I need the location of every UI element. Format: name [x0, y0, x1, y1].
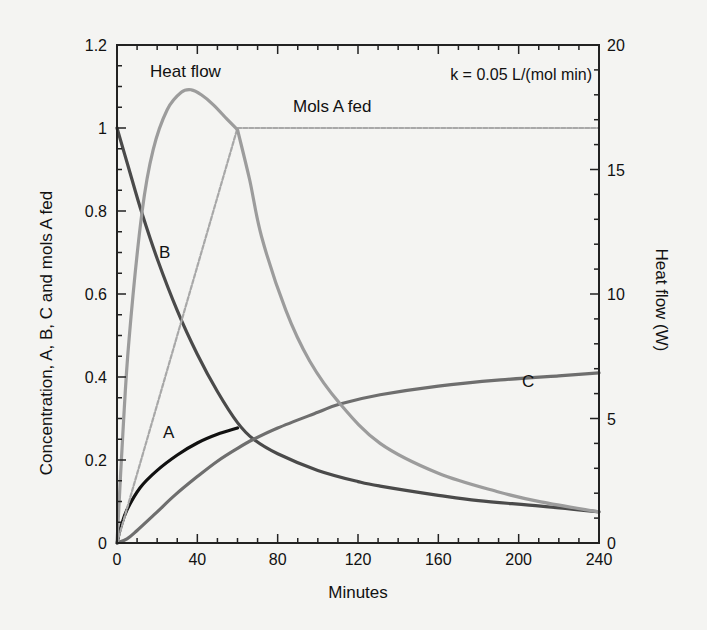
series-label-a: A — [163, 423, 175, 442]
y-tick-label-left: 1 — [98, 120, 107, 137]
x-tick-label: 200 — [505, 551, 532, 568]
series-layer — [117, 90, 599, 543]
y-tick-label-left: 0.2 — [85, 452, 107, 469]
x-ticks: 04080120160200240 — [113, 45, 613, 568]
x-axis-label: Minutes — [328, 583, 388, 602]
y-tick-label-left: 1.2 — [85, 37, 107, 54]
x-tick-label: 80 — [269, 551, 287, 568]
series-line-b — [117, 128, 599, 512]
y-tick-label-left: 0.4 — [85, 369, 107, 386]
series-label-c: C — [522, 372, 534, 391]
series-label-mols-a-fed: Mols A fed — [293, 97, 371, 116]
y-axis-label-right: Heat flow (W) — [652, 249, 671, 352]
series-line-c — [117, 373, 599, 543]
y-tick-label-right: 5 — [607, 411, 616, 428]
y-tick-label-right: 15 — [607, 162, 625, 179]
y-tick-label-right: 0 — [607, 535, 616, 552]
x-tick-label: 40 — [188, 551, 206, 568]
series-labels: ABCMols A fedHeat flow — [150, 62, 534, 442]
y-ticks-right: 05101520 — [590, 37, 625, 552]
y-tick-label-right: 10 — [607, 286, 625, 303]
y-tick-label-left: 0 — [98, 535, 107, 552]
x-tick-label: 240 — [586, 551, 613, 568]
chart: 04080120160200240 00.20.40.60.811.2 0510… — [0, 0, 707, 630]
y-tick-label-left: 0.8 — [85, 203, 107, 220]
y-axis-label-left: Concentration, A, B, C and mols A fed — [37, 191, 56, 475]
y-tick-label-right: 20 — [607, 37, 625, 54]
series-line-a — [117, 428, 238, 543]
x-tick-label: 120 — [345, 551, 372, 568]
x-tick-label: 160 — [425, 551, 452, 568]
x-tick-label: 0 — [113, 551, 122, 568]
annotation-rate-constant: k = 0.05 L/(mol min) — [450, 66, 592, 83]
series-label-b: B — [159, 243, 170, 262]
y-tick-label-left: 0.6 — [85, 286, 107, 303]
series-line-heat-flow — [117, 90, 599, 543]
series-label-heat-flow: Heat flow — [150, 62, 222, 81]
